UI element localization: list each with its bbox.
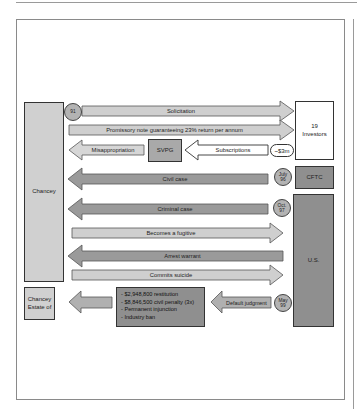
amount-badge: ~$3m bbox=[270, 144, 294, 157]
date-judgment-line2: 99 bbox=[280, 303, 285, 308]
label-promissory: Promissory note guaranteeing 23% return … bbox=[69, 125, 280, 135]
date-badge-start: 91 bbox=[64, 103, 82, 121]
node-estate-line1: Chancey bbox=[28, 296, 52, 304]
penalties-box: - $2,948,800 restitution - $8,846,500 ci… bbox=[116, 287, 205, 327]
node-chancey: Chancey bbox=[24, 102, 64, 282]
label-arrest-warrant: Arrest warrant bbox=[82, 251, 283, 261]
penalty-item: - Permanent injunction bbox=[121, 306, 200, 314]
amount-label: ~$3m bbox=[274, 148, 289, 154]
label-solicitation: Solicitation bbox=[82, 106, 280, 116]
label-criminal-case: Criminal case bbox=[82, 204, 268, 214]
node-cftc-label: CFTC bbox=[307, 174, 323, 182]
date-start-label: 91 bbox=[70, 109, 75, 114]
arrow-to-estate bbox=[69, 291, 112, 313]
label-default-judgment: Default judgment bbox=[222, 297, 271, 308]
label-fugitive: Becomes a fugitive bbox=[72, 228, 270, 238]
label-suicide: Commits suicide bbox=[72, 270, 270, 280]
node-svpg: SVPG bbox=[148, 139, 182, 162]
penalty-item: - $8,846,500 civil penalty (3x) bbox=[121, 299, 200, 307]
penalty-item: - Industry ban bbox=[121, 314, 200, 322]
date-criminal-line2: 97 bbox=[279, 208, 284, 213]
node-us: U.S. bbox=[293, 194, 334, 327]
node-svpg-label: SVPG bbox=[157, 147, 174, 155]
date-badge-judgment: May 99 bbox=[274, 294, 292, 312]
node-chancey-label: Chancey bbox=[32, 188, 56, 196]
date-badge-criminal: Oct. 97 bbox=[273, 199, 291, 217]
date-badge-civil: July 96 bbox=[274, 168, 292, 186]
label-misappropriation: Misappropriation bbox=[82, 145, 144, 155]
node-cftc: CFTC bbox=[295, 166, 334, 189]
node-investors-count: 19 bbox=[311, 123, 318, 131]
node-estate-line2: Estate of bbox=[28, 304, 52, 312]
node-investors-label: Investors bbox=[302, 131, 326, 139]
node-us-label: U.S. bbox=[308, 257, 320, 265]
label-subscriptions: Subscriptions bbox=[198, 145, 268, 155]
label-civil-case: Civil case bbox=[82, 174, 268, 184]
date-civil-line2: 96 bbox=[280, 177, 285, 182]
penalty-item: - $2,948,800 restitution bbox=[121, 291, 200, 299]
node-chancey-estate: Chancey Estate of bbox=[24, 287, 55, 320]
node-investors: 19 Investors bbox=[295, 101, 334, 160]
